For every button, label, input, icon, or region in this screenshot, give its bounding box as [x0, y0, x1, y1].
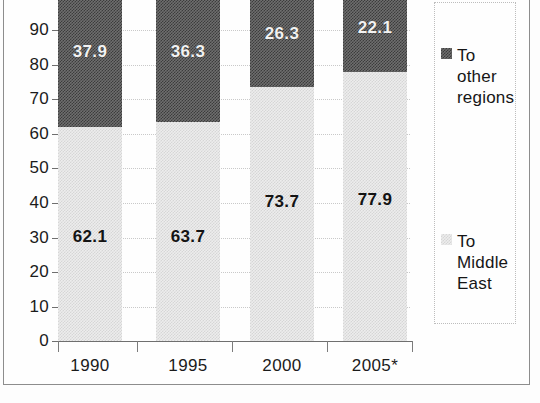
- bar-1990[interactable]: 37.9 62.1: [58, 0, 122, 341]
- x-axis-label-2005: 2005*: [352, 356, 398, 376]
- bar-2000-label-other-regions: 26.3: [250, 24, 314, 44]
- bar-2000-segment-middle-east: 73.7: [250, 87, 314, 342]
- bar-1995-label-other-regions: 36.3: [156, 42, 220, 62]
- bar-1995-segment-other-regions: 36.3: [156, 0, 220, 122]
- bar-2005-label-middle-east: 77.9: [343, 190, 407, 210]
- bar-1995[interactable]: 36.3 63.7: [156, 0, 220, 341]
- legend-label-other-regions-line2: regions: [457, 88, 514, 107]
- bar-1990-segment-other-regions: 37.9: [58, 0, 122, 127]
- legend-label-middle-east-line1: To Middle: [457, 232, 508, 272]
- x-tick-2: [232, 341, 233, 352]
- bar-2005[interactable]: 22.1 77.9: [343, 0, 407, 341]
- bar-1990-segment-middle-east: 62.1: [58, 127, 122, 341]
- bar-2005-segment-middle-east: 77.9: [343, 72, 407, 341]
- plot-area: 90 80 70 60 50 40 30 20 10 0 37.9 62.1: [58, 0, 410, 341]
- bar-2000-segment-other-regions: 26.3: [250, 0, 314, 87]
- x-tick-start: [58, 341, 59, 352]
- bar-2005-segment-other-regions: 22.1: [343, 0, 407, 72]
- x-tick-end: [412, 341, 413, 352]
- y-axis-label-30: 30: [29, 228, 49, 248]
- y-axis-label-70: 70: [29, 89, 49, 109]
- x-axis-label-2000: 2000: [262, 356, 301, 376]
- bar-2005-label-other-regions: 22.1: [343, 18, 407, 38]
- y-axis-label-40: 40: [29, 193, 49, 213]
- x-tick-1: [137, 341, 138, 352]
- bar-1995-label-middle-east: 63.7: [156, 227, 220, 247]
- legend-swatch-light-icon: [441, 234, 452, 245]
- chart-figure: 90 80 70 60 50 40 30 20 10 0 37.9 62.1: [0, 0, 540, 403]
- y-axis-label-20: 20: [29, 262, 49, 282]
- bar-1990-label-middle-east: 62.1: [58, 227, 122, 247]
- bar-2000-label-middle-east: 73.7: [250, 192, 314, 212]
- legend-swatch-dark-icon: [441, 48, 452, 59]
- y-axis-label-10: 10: [29, 297, 49, 317]
- y-axis-label-50: 50: [29, 158, 49, 178]
- x-tick-3: [327, 341, 328, 352]
- y-axis-label-0: 0: [39, 331, 49, 351]
- bar-1990-label-other-regions: 37.9: [58, 42, 122, 62]
- bar-1995-segment-middle-east: 63.7: [156, 122, 220, 342]
- y-axis-label-60: 60: [29, 124, 49, 144]
- legend-label-middle-east-line2: East: [457, 274, 492, 293]
- x-axis-label-1995: 1995: [168, 356, 207, 376]
- legend-label-middle-east: To Middle East: [457, 231, 515, 294]
- legend-label-other-regions: To other regions: [457, 45, 515, 108]
- chart-legend: To other regions To Middle East: [434, 2, 516, 324]
- bar-2000[interactable]: 26.3 73.7: [250, 0, 314, 341]
- y-axis-label-90: 90: [29, 20, 49, 40]
- legend-item-middle-east[interactable]: To Middle East: [441, 231, 515, 294]
- legend-label-other-regions-line1: To other: [457, 46, 497, 86]
- legend-item-other-regions[interactable]: To other regions: [441, 45, 515, 108]
- x-axis-label-1990: 1990: [70, 356, 109, 376]
- x-axis-line: [58, 341, 413, 342]
- y-axis-label-80: 80: [29, 55, 49, 75]
